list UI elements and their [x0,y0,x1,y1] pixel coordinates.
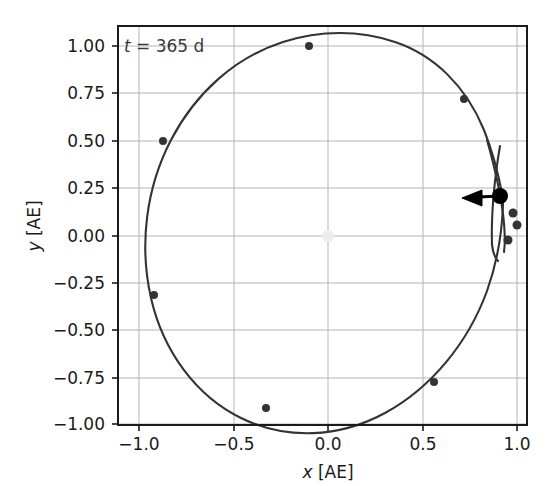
y-axis-title-unit: [AE] [24,200,44,241]
y-tick-label: −1.00 [53,414,105,434]
x-tick-label: 0.0 [314,434,341,454]
orbit-marker [305,42,313,50]
orbit-marker [504,236,513,245]
y-tick-label: −0.25 [53,273,105,293]
plot-canvas: −1.0 −0.5 0.0 0.5 1.0 1.00 0.75 0.50 0.2… [0,0,553,486]
orbit-marker [513,221,522,230]
y-tick-label: 0.25 [67,178,105,198]
x-axis-title-unit: [AE] [313,462,354,482]
y-tick-label: 0.75 [67,83,105,103]
orbit-marker [262,404,270,412]
orbit-plot-figure: −1.0 −0.5 0.0 0.5 1.0 1.00 0.75 0.50 0.2… [0,0,553,486]
x-tick-label: 0.5 [409,434,436,454]
y-tick-label: −0.75 [53,368,105,388]
y-tick-label: 1.00 [67,36,105,56]
y-tick-label: 0.50 [67,131,105,151]
y-tick-label: −0.50 [53,320,105,340]
sun-marker [322,230,334,242]
x-tick-label: 1.0 [503,434,530,454]
x-tick-labels: −1.0 −0.5 0.0 0.5 1.0 [118,434,530,454]
orbit-marker [509,209,518,218]
y-axis-title: y [AE] [24,200,44,252]
orbit-marker [159,137,167,145]
time-annotation-eq: = 365 d [131,36,205,56]
x-axis-title: x [AE] [301,462,353,482]
x-tick-label: −1.0 [118,434,159,454]
time-annotation: t = 365 d [124,36,204,56]
orbit-marker [460,95,468,103]
orbit-marker [430,378,438,386]
planet-current-position [492,188,508,204]
orbit-marker [150,291,158,299]
x-tick-label: −0.5 [213,434,254,454]
y-tick-label: 0.00 [67,226,105,246]
y-tick-labels: 1.00 0.75 0.50 0.25 0.00 −0.25 −0.50 −0.… [53,36,105,434]
